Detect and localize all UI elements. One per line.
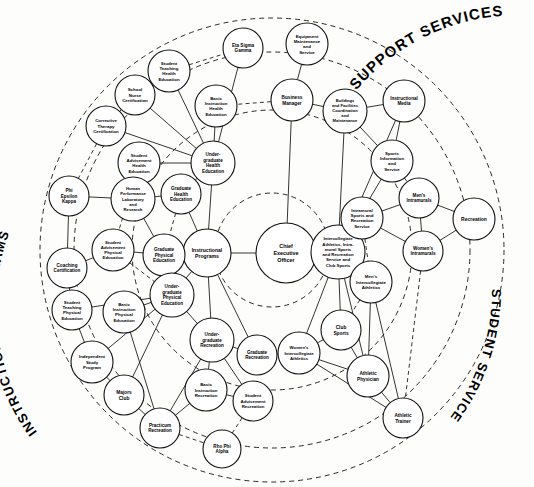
node-circle-sports-information-and-service[interactable] xyxy=(371,140,413,182)
node-basic-instruction-health-education[interactable]: BasicInstructionHealthEducation xyxy=(195,85,237,127)
node-mens-intercollegiate-athletics[interactable]: Men'sIntercollegiateAthletics xyxy=(350,261,392,303)
node-circle-equipment-maintenance-and-service[interactable] xyxy=(286,23,328,65)
edge-mens-intramurals--recreation xyxy=(438,205,455,211)
node-eta-sigma-gamma[interactable]: Eta SigmaGamma xyxy=(223,28,263,68)
node-circle-student-teaching-physical-education[interactable] xyxy=(52,290,92,330)
node-human-performance-laboratory[interactable]: HumanPerformanceLaboratoryandResearch xyxy=(111,177,155,221)
node-circle-practicum-recreation[interactable] xyxy=(140,408,180,448)
node-circle-eta-sigma-gamma[interactable] xyxy=(223,28,263,68)
node-instructional-programs-hub[interactable]: InstructionalPrograms xyxy=(183,229,231,277)
node-circle-athletic-trainer[interactable] xyxy=(383,398,423,438)
node-circle-student-advisement-recreation[interactable] xyxy=(233,381,273,421)
node-circle-majors-club[interactable] xyxy=(104,375,144,415)
node-circle-corrective-therapy-certification[interactable] xyxy=(86,106,126,146)
edge-graduate-physical-education--student-advisement-physical-education xyxy=(134,252,143,253)
node-independent-study-program[interactable]: IndependentStudyProgram xyxy=(71,341,113,383)
node-basic-instruction-physical-education[interactable]: BasicInstructionPhysicalEducation xyxy=(103,291,145,333)
node-recreation[interactable]: Recreation xyxy=(453,198,495,240)
node-circle-chief-executive-officer[interactable] xyxy=(256,223,316,283)
node-circle-buildings-and-facilities[interactable] xyxy=(323,89,367,133)
node-sports-information-and-service[interactable]: SportsInformationandService xyxy=(371,140,413,182)
node-circle-basic-instruction-physical-education[interactable] xyxy=(103,291,145,333)
node-equipment-maintenance-and-service[interactable]: EquipmentMaintenanceandService xyxy=(286,23,328,65)
node-circle-graduate-physical-education[interactable] xyxy=(143,234,185,276)
node-chief-executive-officer[interactable]: ChiefExecutiveOfficer xyxy=(256,223,316,283)
node-circle-mens-intercollegiate-athletics[interactable] xyxy=(350,261,392,303)
node-graduate-recreation[interactable]: GraduateRecreation xyxy=(237,335,277,375)
node-practicum-recreation[interactable]: PracticumRecreation xyxy=(140,408,180,448)
node-circle-graduate-health-education[interactable] xyxy=(161,174,201,214)
edge-basic-instruction-recreation--student-advisement-recreation xyxy=(226,395,233,397)
node-coaching-certification[interactable]: CoachingCertification xyxy=(47,248,87,288)
node-school-nurse-certification[interactable]: SchoolNurseCertification xyxy=(115,75,155,115)
node-mens-intramurals[interactable]: Men'sIntramurals xyxy=(399,178,439,218)
node-circle-basic-instruction-health-education[interactable] xyxy=(195,85,237,127)
node-circle-basic-instruction-recreation[interactable] xyxy=(185,369,227,411)
node-corrective-therapy-certification[interactable]: CorrectiveTherapyCertification xyxy=(86,106,126,146)
node-circle-graduate-recreation[interactable] xyxy=(237,335,277,375)
node-circle-school-nurse-certification[interactable] xyxy=(115,75,155,115)
edge-practicum-recreation--rho-phi-alpha xyxy=(179,434,204,442)
edge-athletic-physician--athletic-trainer xyxy=(381,392,390,403)
node-graduate-health-education[interactable]: GraduateHealthEducation xyxy=(161,174,201,214)
edge-instructional-media--sports-information-and-service xyxy=(396,122,400,141)
node-circle-recreation[interactable] xyxy=(453,198,495,240)
node-buildings-and-facilities[interactable]: Buildingsand FacilitiesCoordinationandMa… xyxy=(323,89,367,133)
node-phi-epsilon-kappa[interactable]: PhiEpsilonKappa xyxy=(49,176,89,216)
node-graduate-physical-education[interactable]: GraduatePhysicalEducation xyxy=(143,234,185,276)
node-circle-womens-intramurals[interactable] xyxy=(403,231,443,271)
node-undergraduate-physical-education[interactable]: Under-graduatePhysicalEducation xyxy=(150,273,194,317)
node-student-teaching-health-education[interactable]: StudentTeachingHealthEducation xyxy=(148,50,190,92)
node-circle-undergraduate-physical-education[interactable] xyxy=(150,273,194,317)
node-athletic-trainer[interactable]: AthleticTrainer xyxy=(383,398,423,438)
node-circle-athletic-physician[interactable] xyxy=(347,355,389,397)
node-womens-intercollegiate-athletics[interactable]: Women'sIntercollegiateAthletics xyxy=(278,332,320,374)
node-student-advisement-recreation[interactable]: StudentAdvisementRecreation xyxy=(233,381,273,421)
node-circle-coaching-certification[interactable] xyxy=(47,248,87,288)
node-circle-student-advisement-physical-education[interactable] xyxy=(92,229,134,271)
edge-intramural-sports-and-recreation-service--mens-intramurals xyxy=(382,205,400,211)
node-basic-instruction-recreation[interactable]: BasicInstructionRecreation xyxy=(185,369,227,411)
node-business-manager[interactable]: BusinessManager xyxy=(271,79,313,121)
sector-label-instructional-programs: INSTRUCTIONAL PROGRAMS xyxy=(0,228,40,439)
node-undergraduate-health-education[interactable]: Under-graduateHealthEducation xyxy=(191,141,235,185)
node-circle-undergraduate-recreation[interactable] xyxy=(190,318,234,362)
node-circle-instructional-programs-hub[interactable] xyxy=(183,229,231,277)
node-circle-business-manager[interactable] xyxy=(271,79,313,121)
node-circle-independent-study-program[interactable] xyxy=(71,341,113,383)
edge-independent-study-program--majors-club xyxy=(107,377,110,381)
node-circle-club-sports[interactable] xyxy=(321,310,361,350)
edge-basic-instruction-recreation--practicum-recreation xyxy=(175,403,189,415)
node-circle-rho-phi-alpha[interactable] xyxy=(203,430,241,468)
node-instructional-media[interactable]: InstructionalMedia xyxy=(383,80,425,122)
edge-business-manager--buildings-and-facilities xyxy=(313,104,324,106)
edge-business-manager--basic-instruction-health-education xyxy=(237,102,271,105)
node-student-advisement-physical-education[interactable]: StudentAdvisementPhysicalEducation xyxy=(92,229,134,271)
edge-phi-epsilon-kappa--coaching-certification xyxy=(68,216,69,248)
node-undergraduate-recreation[interactable]: Under-graduateRecreation xyxy=(190,318,234,362)
node-circle-human-performance-laboratory[interactable] xyxy=(111,177,155,221)
edge-intercollegiate-athletics-hub--club-sports xyxy=(339,279,340,310)
node-circle-mens-intramurals[interactable] xyxy=(399,178,439,218)
edge-mens-intercollegiate-athletics--club-sports xyxy=(352,300,360,313)
edge-intramural-sports-and-recreation-service--womens-intramurals xyxy=(380,228,405,241)
node-student-teaching-physical-education[interactable]: StudentTeachingPhysicalEducation xyxy=(52,290,92,330)
edge-instructional-programs-hub--graduate-health-education xyxy=(189,212,197,231)
edge-mens-intramurals--womens-intramurals xyxy=(421,218,422,231)
edge-club-sports--womens-intercollegiate-athletics xyxy=(317,340,323,343)
node-womens-intramurals[interactable]: Women'sIntramurals xyxy=(403,231,443,271)
edge-human-performance-laboratory--graduate-physical-education xyxy=(144,218,154,236)
node-circle-student-teaching-health-education[interactable] xyxy=(148,50,190,92)
node-intramural-sports-and-recreation-service[interactable]: IntramuralSports andRecreationService xyxy=(341,197,383,239)
node-rho-phi-alpha[interactable]: Rho PhiAlpha xyxy=(203,430,241,468)
node-circle-undergraduate-health-education[interactable] xyxy=(191,141,235,185)
node-circle-phi-epsilon-kappa[interactable] xyxy=(49,176,89,216)
node-circle-instructional-media[interactable] xyxy=(383,80,425,122)
edge-undergraduate-physical-education--undergraduate-recreation xyxy=(187,311,198,323)
node-circle-intramural-sports-and-recreation-service[interactable] xyxy=(341,197,383,239)
node-athletic-physician[interactable]: AthleticPhysician xyxy=(347,355,389,397)
node-circle-womens-intercollegiate-athletics[interactable] xyxy=(278,332,320,374)
node-club-sports[interactable]: ClubSports xyxy=(321,310,361,350)
edge-majors-club--practicum-recreation xyxy=(139,409,146,415)
node-majors-club[interactable]: MajorsClub xyxy=(104,375,144,415)
